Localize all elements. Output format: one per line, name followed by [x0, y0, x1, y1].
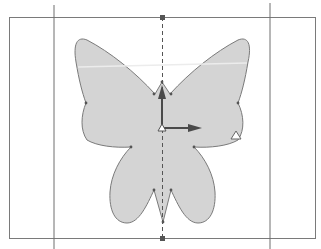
axis-bottom-handle[interactable] [160, 236, 165, 241]
viewport-svg[interactable] [0, 0, 321, 249]
axis-top-handle[interactable] [160, 15, 165, 20]
node-point[interactable] [153, 93, 156, 96]
node-point[interactable] [237, 102, 240, 105]
node-point[interactable] [85, 102, 88, 105]
node-point[interactable] [170, 189, 173, 192]
node-point[interactable] [162, 221, 165, 224]
node-point[interactable] [170, 93, 173, 96]
node-point[interactable] [130, 146, 133, 149]
drawing-canvas[interactable] [0, 0, 321, 249]
node-point[interactable] [193, 146, 196, 149]
node-point[interactable] [161, 81, 164, 84]
node-point[interactable] [153, 189, 156, 192]
